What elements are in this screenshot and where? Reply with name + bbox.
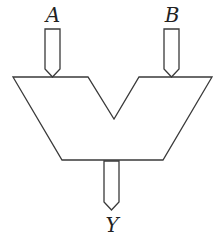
input-a-arrow xyxy=(45,29,60,77)
input-b-arrow xyxy=(164,29,179,77)
output-y-label: Y xyxy=(105,213,120,237)
input-a-label: A xyxy=(44,3,60,27)
alu-diagram: A B Y xyxy=(0,0,220,246)
output-y-arrow xyxy=(104,161,119,210)
alu-body xyxy=(13,77,212,160)
input-b-label: B xyxy=(164,3,180,27)
